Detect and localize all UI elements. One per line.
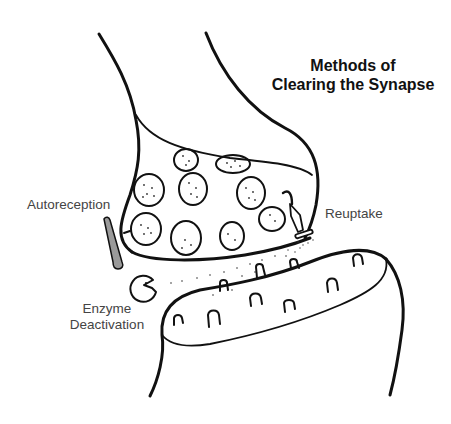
label-reuptake: Reuptake: [325, 206, 383, 222]
label-enzyme-line-1: Enzyme: [62, 301, 152, 317]
dendrite-outer-left: [150, 251, 386, 396]
title-line-2: Clearing the Synapse: [268, 75, 438, 94]
label-enzyme-line-2: Deactivation: [62, 317, 152, 333]
reuptake-transporter: [283, 192, 313, 239]
label-enzyme-deactivation: Enzyme Deactivation: [62, 301, 152, 333]
dendrite-inner-membrane: [162, 259, 387, 346]
terminal-inner-membrane: [136, 115, 312, 175]
synapse-diagram: Methods of Clearing the Synapse Autorece…: [0, 0, 451, 424]
diagram-title: Methods of Clearing the Synapse: [268, 56, 438, 94]
enzyme-shape: [130, 276, 156, 302]
autoreceptor: [104, 217, 130, 269]
vesicles: [131, 149, 285, 255]
receptor-bumps: [220, 259, 299, 291]
label-autoreception: Autoreception: [27, 197, 110, 213]
dendrite-outer-right: [386, 259, 403, 395]
title-line-1: Methods of: [268, 56, 438, 75]
